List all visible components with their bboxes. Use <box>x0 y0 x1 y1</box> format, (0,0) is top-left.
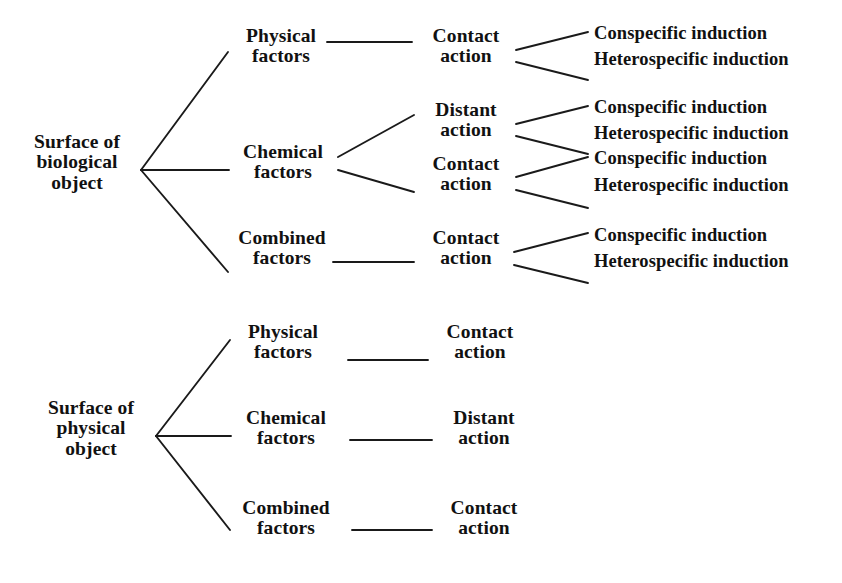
edge-bio-g3-to-heterospecific <box>516 190 588 208</box>
leaf-node-bio-g2-heterospecific: Heterospecific induction <box>594 124 789 143</box>
root-node-physical: Surface of physical object <box>32 398 150 459</box>
edge-bio-g2-to-conspecific <box>516 106 588 124</box>
edge-bio-root-to-combined <box>141 170 228 272</box>
root-node-biological: Surface of biological object <box>18 132 136 193</box>
action-node-phys-physical-contact: Contact action <box>434 322 526 363</box>
factor-node-bio-combined: Combined factors <box>228 228 336 269</box>
diagram-canvas: Surface of biological object Physical fa… <box>0 0 842 583</box>
action-node-bio-physical-contact: Contact action <box>420 26 512 67</box>
edge-bio-g2-to-heterospecific <box>516 136 588 154</box>
factor-node-bio-physical: Physical factors <box>233 26 329 67</box>
edge-bio-g3-to-conspecific <box>516 157 588 177</box>
leaf-node-bio-g3-heterospecific: Heterospecific induction <box>594 176 789 195</box>
leaf-node-bio-g3-conspecific: Conspecific induction <box>594 149 767 168</box>
action-node-bio-combined-contact: Contact action <box>420 228 512 269</box>
factor-node-phys-physical: Physical factors <box>235 322 331 363</box>
edge-phys-root-to-combined <box>156 436 230 530</box>
factor-node-phys-combined: Combined factors <box>230 498 342 539</box>
edge-bio-g1-to-heterospecific <box>516 62 588 80</box>
factor-node-phys-chemical: Chemical factors <box>234 408 338 449</box>
leaf-node-bio-g4-heterospecific: Heterospecific induction <box>594 252 789 271</box>
edge-bio-g1-to-conspecific <box>516 32 588 50</box>
edge-bio-chemical-to-distant <box>338 115 414 157</box>
edge-bio-g4-to-heterospecific <box>514 265 588 283</box>
factor-node-bio-chemical: Chemical factors <box>231 142 335 183</box>
action-node-phys-combined-contact: Contact action <box>438 498 530 539</box>
leaf-node-bio-g4-conspecific: Conspecific induction <box>594 226 767 245</box>
edge-phys-root-to-physical <box>156 340 230 436</box>
edge-bio-chemical-to-contact <box>338 170 414 192</box>
edge-bio-g4-to-conspecific <box>514 233 588 252</box>
action-node-bio-chemical-contact: Contact action <box>420 154 512 195</box>
leaf-node-bio-g1-heterospecific: Heterospecific induction <box>594 50 789 69</box>
edge-bio-root-to-physical <box>141 52 228 170</box>
connector-lines <box>0 0 842 583</box>
leaf-node-bio-g1-conspecific: Conspecific induction <box>594 24 767 43</box>
action-node-phys-chemical-distant: Distant action <box>438 408 530 449</box>
action-node-bio-chemical-distant: Distant action <box>420 100 512 141</box>
leaf-node-bio-g2-conspecific: Conspecific induction <box>594 98 767 117</box>
